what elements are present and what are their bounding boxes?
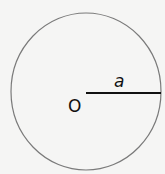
circle-diagram xyxy=(0,0,165,174)
center-label: O xyxy=(68,98,81,115)
circle-outline xyxy=(11,13,161,170)
radius-label: a xyxy=(114,73,124,90)
diagram-canvas: O a xyxy=(0,0,165,174)
